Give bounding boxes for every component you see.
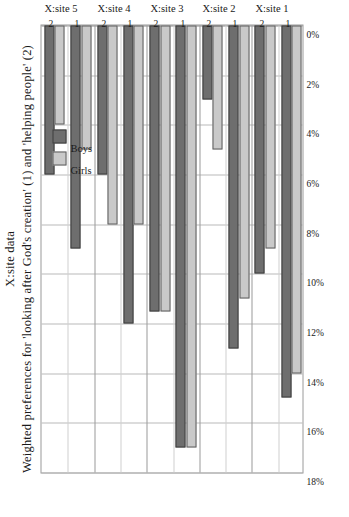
x-tick-label: 16% — [306, 426, 323, 436]
bar-boys-x-site-1-1 — [281, 25, 291, 398]
bar-row — [254, 25, 264, 472]
site-separator — [251, 25, 252, 472]
rotated-figure: X:site data Weighted preferences for 'lo… — [0, 0, 349, 517]
bar-row — [265, 25, 275, 472]
legend-label-boys: Boys — [70, 142, 92, 153]
bar-girls-x-site-2-1 — [239, 25, 249, 298]
site-group-label: X:site 3 — [150, 2, 183, 13]
bar-row — [97, 25, 107, 472]
chart-page: X:site data Weighted preferences for 'lo… — [0, 0, 349, 517]
pref-separator — [120, 25, 121, 472]
chart-title: X:site data — [2, 0, 17, 517]
x-tick-label: 0% — [306, 29, 319, 39]
legend-swatch-boys — [52, 129, 66, 143]
bar-row — [239, 25, 249, 472]
site-group-label: X:site 4 — [97, 2, 130, 13]
bar-row — [149, 25, 159, 472]
pref-separator — [67, 25, 68, 472]
preference-number-label: 2 — [259, 18, 264, 28]
pref-separator — [225, 25, 226, 472]
site-group-label: X:site 1 — [255, 2, 288, 13]
bar-girls-x-site-1-2 — [265, 25, 275, 249]
bar-girls-x-site-1-1 — [291, 25, 301, 373]
x-tick-label: 4% — [306, 128, 319, 138]
site-group-label: X:site 5 — [44, 2, 77, 13]
plot-area — [40, 24, 303, 473]
x-tick-label: 12% — [306, 327, 323, 337]
site-group-label: X:site 2 — [202, 2, 235, 13]
bar-row — [70, 25, 80, 472]
bar-boys-x-site-3-1 — [175, 25, 185, 447]
x-tick-label: 18% — [306, 476, 323, 486]
x-tick-label: 6% — [306, 178, 319, 188]
bar-girls-x-site-2-2 — [212, 25, 222, 149]
bar-row — [44, 25, 54, 472]
bar-row — [81, 25, 91, 472]
bar-row — [291, 25, 301, 472]
bar-row — [228, 25, 238, 472]
bar-girls-x-site-3-2 — [160, 25, 170, 311]
bar-row — [54, 25, 64, 472]
site-separator — [146, 25, 147, 472]
bar-row — [175, 25, 185, 472]
legend-label-girls: Girls — [70, 164, 91, 175]
bar-row — [133, 25, 143, 472]
bar-row — [123, 25, 133, 472]
bar-row — [202, 25, 212, 472]
bar-boys-x-site-4-1 — [123, 25, 133, 323]
chart-legend: GirlsBoys — [52, 101, 118, 165]
bar-boys-x-site-2-2 — [202, 25, 212, 100]
preference-number-label: 1 — [232, 18, 237, 28]
pref-separator — [173, 25, 174, 472]
preference-number-label: 2 — [101, 18, 106, 28]
chart-subtitle: Weighted preferences for 'looking after … — [19, 0, 34, 517]
bar-row — [281, 25, 291, 472]
preference-number-label: 2 — [206, 18, 211, 28]
bar-row — [186, 25, 196, 472]
bar-girls-x-site-3-1 — [186, 25, 196, 447]
legend-swatch-girls — [52, 151, 66, 165]
bar-row — [212, 25, 222, 472]
preference-number-label: 1 — [285, 18, 290, 28]
preference-number-label: 1 — [180, 18, 185, 28]
site-separator — [94, 25, 95, 472]
preference-number-label: 2 — [48, 18, 53, 28]
x-tick-label: 14% — [306, 377, 323, 387]
site-separator — [199, 25, 200, 472]
bar-row — [160, 25, 170, 472]
bar-row — [107, 25, 117, 472]
pref-separator — [278, 25, 279, 472]
preference-number-label: 1 — [127, 18, 132, 28]
bar-boys-x-site-1-2 — [254, 25, 264, 273]
preference-number-label: 1 — [74, 18, 79, 28]
bar-boys-x-site-2-1 — [228, 25, 238, 348]
x-tick-label: 2% — [306, 79, 319, 89]
x-tick-label: 8% — [306, 228, 319, 238]
bar-girls-x-site-4-1 — [133, 25, 143, 224]
x-tick-label: 10% — [306, 277, 323, 287]
preference-number-label: 2 — [153, 18, 158, 28]
bar-boys-x-site-3-2 — [149, 25, 159, 311]
